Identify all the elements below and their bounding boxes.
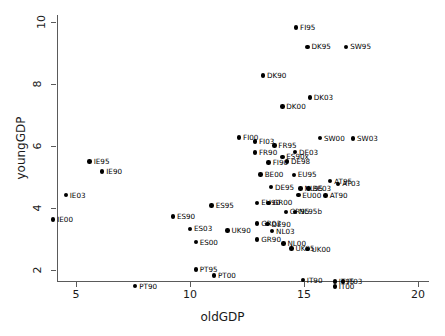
point-label: DE95 — [275, 184, 294, 191]
point-marker — [100, 169, 104, 173]
point-marker — [209, 203, 213, 207]
point-marker — [51, 217, 55, 221]
point-label: GR00 — [273, 199, 293, 206]
point-marker — [225, 228, 229, 232]
point-label: SW95 — [350, 43, 371, 50]
y-tick-label-2: 2 — [32, 267, 43, 274]
point-marker — [255, 221, 259, 225]
point-marker — [266, 201, 270, 205]
point-marker — [292, 173, 296, 177]
point-marker — [237, 135, 241, 139]
y-axis-line — [57, 15, 58, 281]
point-marker — [306, 186, 310, 190]
point-marker — [255, 201, 259, 205]
point-label: EU95 — [298, 171, 317, 178]
point-label: ES90 — [177, 213, 195, 220]
point-label: PT00 — [218, 272, 236, 279]
point-label: BE00 — [265, 171, 284, 178]
point-label: IE95 — [94, 158, 110, 165]
point-marker — [305, 247, 309, 251]
x-tick-label-5: 5 — [73, 289, 80, 300]
point-label: IT90 — [307, 277, 323, 284]
point-marker — [328, 179, 332, 183]
point-marker — [323, 193, 327, 197]
point-label: UK00 — [311, 246, 330, 253]
y-axis-title: youngGDP — [14, 108, 28, 188]
point-marker — [212, 273, 216, 277]
point-label: IT00 — [339, 283, 355, 290]
point-marker — [351, 136, 355, 140]
y-tick-label-8: 8 — [32, 81, 43, 88]
point-marker — [333, 284, 337, 288]
point-marker — [289, 246, 293, 250]
point-marker — [296, 193, 300, 197]
point-marker — [194, 267, 198, 271]
point-marker — [298, 186, 302, 190]
y-tick-4 — [51, 208, 56, 209]
point-label: DK90 — [267, 72, 286, 79]
x-axis-line — [57, 281, 429, 282]
point-marker — [293, 210, 297, 214]
y-tick-label-10: 10 — [36, 15, 47, 29]
x-axis-title: oldGDP — [0, 310, 445, 324]
point-label: FR95 — [278, 142, 296, 149]
y-tick-label-4: 4 — [32, 205, 43, 212]
point-marker — [253, 150, 257, 154]
y-tick-10 — [51, 22, 56, 23]
point-marker — [265, 222, 269, 226]
point-marker — [284, 210, 288, 214]
point-label: IE90 — [106, 168, 122, 175]
x-tick-label-10: 10 — [183, 289, 197, 300]
point-marker — [258, 172, 262, 176]
x-tick-label-15: 15 — [297, 289, 311, 300]
point-marker — [272, 143, 276, 147]
point-marker — [280, 104, 284, 108]
point-marker — [294, 25, 298, 29]
x-tick-label-20: 20 — [411, 289, 425, 300]
point-label: FI95 — [300, 24, 315, 31]
y-tick-label-6: 6 — [32, 143, 43, 150]
point-label: DK95 — [311, 43, 330, 50]
point-label: DE98 — [291, 158, 310, 165]
x-tick-5 — [76, 282, 77, 287]
point-marker — [133, 284, 137, 288]
point-label: SW00 — [324, 135, 345, 142]
point-label: PT95 — [200, 266, 218, 273]
point-label: GR90 — [261, 236, 281, 243]
point-label: UK90 — [232, 227, 251, 234]
point-label: NL95b — [299, 208, 322, 215]
point-marker — [171, 214, 175, 218]
x-tick-15 — [304, 282, 305, 287]
point-marker — [255, 237, 259, 241]
point-marker — [308, 95, 312, 99]
point-marker — [344, 45, 348, 49]
point-label: PT90 — [139, 283, 157, 290]
point-marker — [285, 159, 289, 163]
point-label: IE00 — [57, 216, 73, 223]
point-label: AT03 — [342, 180, 360, 187]
point-marker — [305, 45, 309, 49]
y-tick-6 — [51, 146, 56, 147]
point-marker — [194, 240, 198, 244]
point-marker — [333, 279, 337, 283]
point-marker — [64, 193, 68, 197]
point-label: ES95 — [216, 202, 234, 209]
point-label: FR90 — [259, 149, 277, 156]
point-label: EU00 — [302, 192, 321, 199]
point-label: DK00 — [286, 103, 305, 110]
point-label: SW03 — [357, 135, 378, 142]
x-tick-20 — [418, 282, 419, 287]
y-tick-8 — [51, 84, 56, 85]
point-marker — [87, 159, 91, 163]
scatter-plot: 5101520 246810 FI95DK95SW95DK90DK03DK00F… — [0, 0, 445, 336]
point-label: IE03 — [70, 192, 86, 199]
point-label: AT90 — [330, 192, 348, 199]
point-label: NL03 — [276, 228, 295, 235]
point-marker — [281, 241, 285, 245]
point-label: ES00 — [200, 239, 218, 246]
point-marker — [188, 227, 192, 231]
point-label: ES03 — [194, 225, 212, 232]
point-marker — [266, 160, 270, 164]
point-marker — [253, 139, 257, 143]
y-tick-2 — [51, 270, 56, 271]
